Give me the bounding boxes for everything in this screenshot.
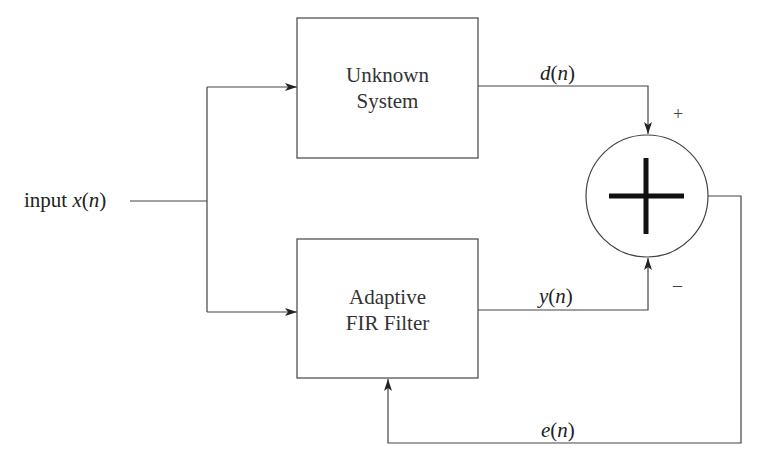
error-signal-name: e bbox=[541, 418, 550, 442]
input-signal-name: x bbox=[72, 188, 81, 212]
input-label: input x(n) bbox=[24, 190, 106, 211]
desired-signal-label: d(n) bbox=[540, 63, 575, 84]
filter-output-arg: n bbox=[555, 284, 566, 308]
plus-sign-label: + bbox=[673, 105, 683, 123]
desired-close-paren: ) bbox=[568, 61, 575, 85]
unknown-system-line1: Unknown bbox=[297, 62, 478, 88]
minus-sign-label: – bbox=[673, 276, 682, 294]
input-prefix: input bbox=[24, 188, 72, 212]
adaptive-filter-line1: Adaptive bbox=[297, 284, 478, 310]
desired-open-paren: ( bbox=[551, 61, 558, 85]
desired-signal-name: d bbox=[540, 61, 551, 85]
adaptive-filter-line2: FIR Filter bbox=[297, 310, 478, 336]
filter-output-close-paren: ) bbox=[566, 284, 573, 308]
filter-output-label: y(n) bbox=[539, 286, 573, 307]
adaptive-filter-label: Adaptive FIR Filter bbox=[297, 284, 478, 336]
desired-arg: n bbox=[558, 61, 569, 85]
input-close-paren: ) bbox=[99, 188, 106, 212]
filter-output-name: y bbox=[539, 284, 548, 308]
unknown-system-label: Unknown System bbox=[297, 62, 478, 114]
error-close-paren: ) bbox=[568, 418, 575, 442]
unknown-system-line2: System bbox=[297, 88, 478, 114]
error-signal-label: e(n) bbox=[541, 420, 575, 441]
error-arg: n bbox=[557, 418, 568, 442]
input-arg: n bbox=[89, 188, 100, 212]
desired-signal-line bbox=[478, 86, 648, 134]
input-open-paren: ( bbox=[82, 188, 89, 212]
